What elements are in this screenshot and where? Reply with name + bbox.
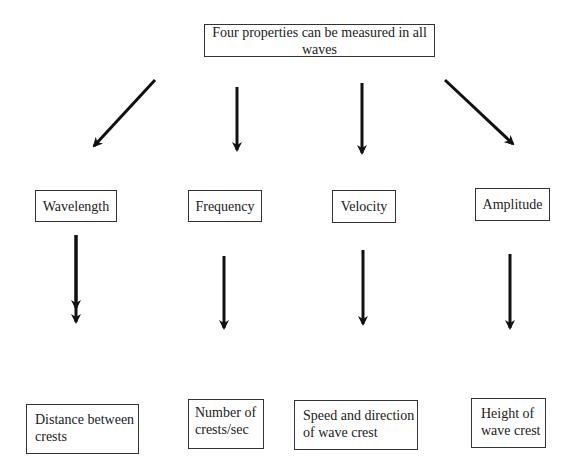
property-label: Amplitude xyxy=(483,196,543,213)
description-line: Speed and direction xyxy=(303,407,417,424)
title-text: Four properties can be measured in all w… xyxy=(205,24,434,58)
description-line: Number of xyxy=(195,404,263,421)
property-label: Wavelength xyxy=(43,198,110,215)
property-label: Velocity xyxy=(341,198,388,215)
property-label: Frequency xyxy=(195,198,254,215)
description-line: crests/sec xyxy=(195,421,263,438)
description-box-amplitude: Height of wave crest xyxy=(471,398,546,448)
description-line: Distance between xyxy=(35,411,138,428)
arrow-to-wavelength xyxy=(94,80,155,146)
title-box: Four properties can be measured in all w… xyxy=(204,24,435,57)
arrow-to-amplitude xyxy=(445,80,513,144)
description-box-frequency: Number of crests/sec xyxy=(188,399,264,449)
description-line: of wave crest xyxy=(303,424,417,441)
property-box-velocity: Velocity xyxy=(332,190,396,223)
description-line: wave crest xyxy=(481,422,545,439)
description-box-velocity: Speed and direction of wave crest xyxy=(294,400,418,450)
description-line: crests xyxy=(35,428,138,445)
property-box-frequency: Frequency xyxy=(188,190,262,222)
property-box-amplitude: Amplitude xyxy=(475,188,550,221)
property-box-wavelength: Wavelength xyxy=(35,190,117,222)
description-box-wavelength: Distance between crests xyxy=(26,404,139,454)
description-line: Height of xyxy=(481,405,545,422)
